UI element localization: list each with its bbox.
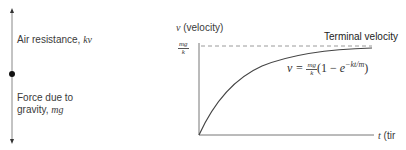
- y-axis-label: v (velocity): [176, 22, 223, 34]
- equation-exponent: −kt/m: [345, 60, 364, 69]
- gravity-label-line1: Force due to: [17, 92, 73, 104]
- arrow-up-icon: [10, 8, 14, 13]
- y-axis-text: (velocity): [180, 22, 223, 33]
- force-diagram-lines: [9, 8, 15, 144]
- equation-fraction: mgk: [306, 62, 317, 77]
- air-resistance-text: Air resistance,: [17, 34, 83, 45]
- x-axis-text: (tir: [381, 130, 395, 141]
- gravity-label-line2: gravity,: [17, 104, 51, 115]
- air-resistance-label: Air resistance, kv: [17, 34, 92, 46]
- equation-paren-open: (1 −: [317, 61, 340, 75]
- arrow-down-icon: [10, 139, 14, 144]
- velocity-equation: v = mgk(1 − e−kt/m): [287, 60, 368, 77]
- air-resistance-symbol: kv: [83, 34, 92, 45]
- graph-axes: [199, 43, 374, 135]
- y-tick-fraction: mg k: [178, 41, 189, 56]
- equation-paren-close: ): [364, 61, 368, 75]
- equation-lhs: v =: [287, 61, 306, 75]
- y-tick-terminal: mg k: [178, 39, 189, 57]
- y-tick-denominator: k: [178, 49, 189, 56]
- object-dot-icon: [9, 71, 15, 77]
- terminal-velocity-label: Terminal velocity: [324, 31, 398, 43]
- x-axis-label: t (tir: [378, 130, 395, 142]
- gravity-symbol: mg: [51, 104, 63, 115]
- equation-denominator: k: [306, 70, 317, 77]
- gravity-label: Force due to gravity, mg: [17, 92, 73, 116]
